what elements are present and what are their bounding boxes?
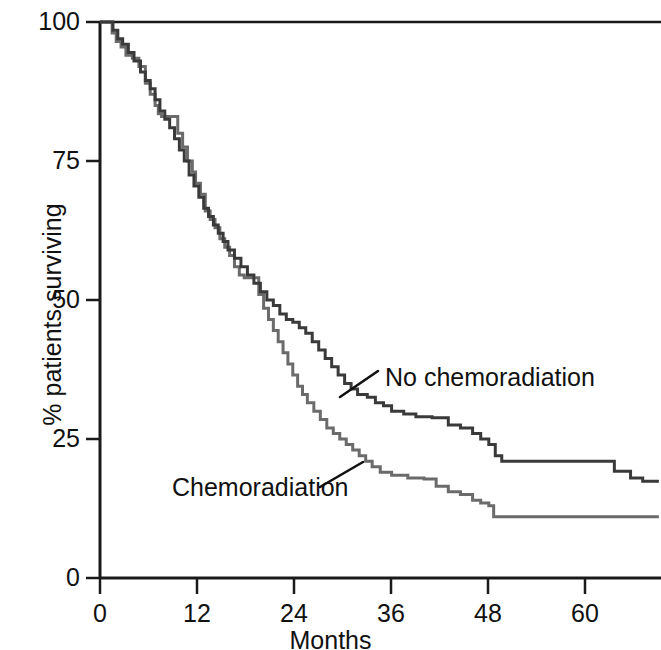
- x-tick-label-48: 48: [458, 601, 518, 626]
- y-tick-marks: [86, 22, 100, 578]
- series-line-no-chemoradiation: [100, 22, 659, 481]
- x-tick-label-36: 36: [361, 601, 421, 626]
- x-tick-label-12: 12: [167, 601, 227, 626]
- annotation-label-chemoradiation: Chemoradiation: [172, 473, 349, 502]
- survival-chart-figure: 100 75 50 25 0 0 12 24 36 48 60 % patien…: [0, 0, 661, 650]
- x-tick-marks: [100, 578, 585, 594]
- plot-area: [0, 0, 661, 650]
- x-tick-label-24: 24: [264, 601, 324, 626]
- x-axis-title: Months: [0, 626, 661, 650]
- x-tick-label-0: 0: [70, 601, 130, 626]
- y-axis-title: % patients surviving: [38, 185, 67, 445]
- y-tick-label-100: 100: [0, 9, 80, 34]
- x-tick-label-60: 60: [555, 601, 615, 626]
- y-tick-label-75: 75: [0, 148, 80, 173]
- annotation-label-no-chemoradiation: No chemoradiation: [385, 363, 595, 392]
- series-line-chemoradiation: [100, 22, 659, 517]
- series-group: [100, 22, 659, 517]
- y-tick-label-0: 0: [0, 565, 80, 590]
